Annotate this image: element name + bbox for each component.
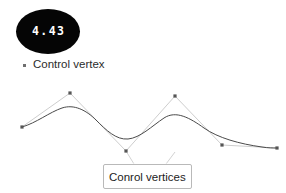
control-vertex-marker[interactable] (220, 143, 223, 146)
control-vertex-marker[interactable] (173, 94, 176, 97)
control-vertex-marker[interactable] (68, 91, 71, 94)
tooltip-leader-lines (126, 151, 175, 164)
tooltip-callout: Conrol vertices (103, 164, 192, 189)
control-vertex-marker[interactable] (20, 125, 23, 128)
control-vertex-marker[interactable] (275, 146, 278, 149)
control-vertex-marker[interactable] (124, 149, 127, 152)
spline-editor-canvas: 4.43 Control vertex Conrol vertices (0, 0, 286, 193)
tooltip-label: Conrol vertices (109, 171, 186, 183)
spline-curve (22, 107, 277, 148)
